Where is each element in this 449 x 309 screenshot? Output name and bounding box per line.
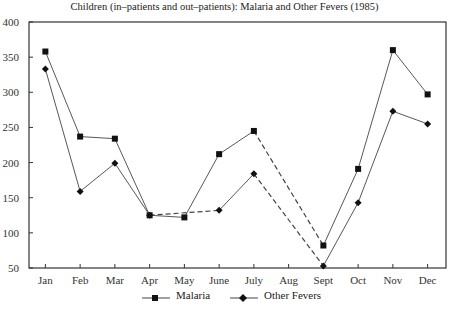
series-line-segment	[45, 69, 80, 191]
plot-frame	[29, 22, 446, 268]
series-line-segment	[45, 52, 80, 137]
square-marker-icon	[112, 136, 118, 142]
line-chart: 50100150200250300350400JanFebMarAprMayJu…	[0, 0, 449, 309]
square-marker-icon	[390, 47, 396, 53]
square-marker-icon	[77, 134, 83, 140]
y-tick-label: 50	[8, 262, 20, 274]
x-tick-label: May	[174, 274, 195, 286]
series-line-segment	[393, 50, 428, 94]
x-tick-label: Dec	[419, 274, 437, 286]
y-tick-label: 100	[3, 227, 20, 239]
square-marker-icon	[251, 128, 257, 134]
square-marker-icon	[181, 214, 187, 220]
x-tick-label: Sept	[314, 274, 334, 286]
series-line-segment	[150, 215, 185, 217]
series-line-segment	[358, 111, 393, 202]
x-tick-label: Feb	[72, 274, 89, 286]
legend-label-other-fevers: Other Fevers	[264, 289, 321, 301]
legend-item-malaria: Malaria	[140, 289, 210, 302]
y-tick-label: 350	[3, 51, 20, 63]
x-tick-label: Nov	[383, 274, 402, 286]
diamond-marker-icon	[424, 120, 431, 127]
square-marker-icon	[216, 151, 222, 157]
series-line-segment	[80, 163, 115, 191]
square-marker-icon	[42, 49, 48, 55]
y-tick-label: 150	[3, 192, 20, 204]
series-line-segment	[80, 137, 115, 139]
legend-item-other-fevers: Other Fevers	[228, 289, 321, 302]
series-line-segment	[358, 50, 393, 169]
x-tick-label: Mar	[106, 274, 125, 286]
series-line-segment	[393, 111, 428, 124]
x-tick-label: Aug	[279, 274, 298, 286]
series-line-segment	[184, 154, 219, 217]
square-marker-icon	[140, 290, 176, 302]
y-tick-label: 250	[3, 121, 20, 133]
x-tick-label: Apr	[141, 274, 158, 286]
diamond-marker-icon	[389, 108, 396, 115]
diamond-marker-icon	[355, 199, 362, 206]
square-marker-icon	[425, 91, 431, 97]
x-tick-label: Jan	[38, 274, 53, 286]
series-line-segment	[115, 139, 150, 216]
diamond-marker-icon	[228, 290, 264, 302]
diamond-marker-icon	[42, 66, 49, 73]
series-line-segment	[115, 163, 150, 215]
square-marker-icon	[320, 243, 326, 249]
series-line-segment	[219, 174, 254, 211]
x-tick-label: June	[209, 274, 229, 286]
x-tick-label: July	[245, 274, 264, 286]
square-marker-icon	[355, 166, 361, 172]
series-line-segment	[219, 131, 254, 154]
y-tick-label: 400	[3, 16, 20, 28]
x-tick-label: Oct	[350, 274, 366, 286]
legend-label-malaria: Malaria	[176, 289, 210, 301]
y-tick-label: 300	[3, 86, 20, 98]
y-tick-label: 200	[3, 157, 20, 169]
